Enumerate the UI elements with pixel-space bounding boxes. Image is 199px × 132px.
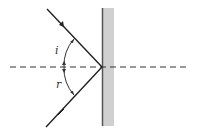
diagram-canvas: i r: [0, 0, 199, 132]
arc-arrow-icon: [62, 61, 66, 65]
angle-r-arc: [64, 67, 74, 95]
reflected-ray: [46, 67, 102, 127]
incident-ray: [47, 9, 102, 67]
angle-r-label: r: [56, 78, 62, 91]
arc-arrow-icon: [70, 91, 74, 95]
reflected-arrow-icon: [58, 109, 64, 115]
arc-arrow-icon: [62, 69, 66, 73]
reflection-diagram: i r: [0, 0, 199, 132]
arc-arrow-icon: [70, 39, 74, 43]
angle-i-label: i: [55, 44, 59, 57]
angle-i-arc: [64, 39, 74, 67]
